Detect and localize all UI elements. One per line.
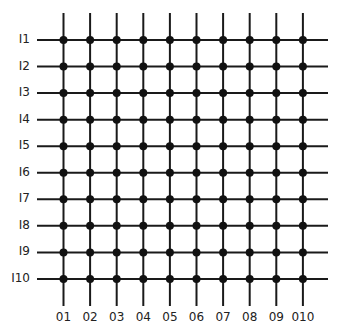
- crosspoint-dot: [246, 142, 254, 150]
- crossbar-grid: [0, 0, 341, 336]
- crosspoint-dot: [246, 169, 254, 177]
- crosspoint-dot: [193, 116, 201, 124]
- crosspoint-dot: [166, 222, 174, 230]
- row-label: I10: [0, 271, 30, 285]
- crosspoint-dot: [113, 63, 121, 71]
- crosspoint-dot: [86, 36, 94, 44]
- crosspoint-dot: [193, 195, 201, 203]
- crossbar-diagram: I1I2I3I4I5I6I7I8I9I100102030405060708090…: [0, 0, 341, 336]
- crosspoint-dot: [246, 36, 254, 44]
- crosspoint-dot: [60, 116, 68, 124]
- crosspoint-dot: [219, 63, 227, 71]
- crosspoint-dot: [219, 142, 227, 150]
- crosspoint-dot: [272, 116, 280, 124]
- crosspoint-dot: [246, 63, 254, 71]
- crosspoint-dot: [113, 169, 121, 177]
- crosspoint-dot: [272, 222, 280, 230]
- crosspoint-dot: [299, 248, 307, 256]
- crosspoint-dot: [113, 195, 121, 203]
- row-label: I3: [0, 85, 30, 99]
- crosspoint-dot: [139, 36, 147, 44]
- row-label: I4: [0, 112, 30, 126]
- row-label: I7: [0, 191, 30, 205]
- crosspoint-dot: [272, 63, 280, 71]
- crosspoint-dot: [86, 275, 94, 283]
- crosspoint-dot: [193, 169, 201, 177]
- crosspoint-dot: [166, 275, 174, 283]
- crosspoint-dot: [246, 195, 254, 203]
- col-label: 06: [182, 310, 212, 324]
- crosspoint-dot: [219, 36, 227, 44]
- crosspoint-dot: [166, 89, 174, 97]
- crosspoint-dot: [86, 63, 94, 71]
- crosspoint-dot: [219, 248, 227, 256]
- crosspoint-dot: [86, 222, 94, 230]
- col-label: 08: [235, 310, 265, 324]
- crosspoint-dot: [299, 222, 307, 230]
- crosspoint-dot: [193, 89, 201, 97]
- crosspoint-dot: [60, 169, 68, 177]
- crosspoint-dot: [86, 195, 94, 203]
- row-label: I1: [0, 32, 30, 46]
- crosspoint-dot: [166, 63, 174, 71]
- crosspoint-dot: [139, 89, 147, 97]
- crosspoint-dot: [113, 222, 121, 230]
- crosspoint-dot: [299, 169, 307, 177]
- crosspoint-dot: [60, 36, 68, 44]
- crosspoint-dot: [113, 142, 121, 150]
- crosspoint-dot: [113, 248, 121, 256]
- crosspoint-dot: [219, 89, 227, 97]
- crosspoint-dot: [139, 142, 147, 150]
- crosspoint-dot: [139, 275, 147, 283]
- crosspoint-dot: [272, 36, 280, 44]
- crosspoint-dot: [219, 275, 227, 283]
- col-label: 07: [208, 310, 238, 324]
- crosspoint-dot: [272, 275, 280, 283]
- crosspoint-dot: [272, 195, 280, 203]
- crosspoint-dot: [139, 248, 147, 256]
- row-label: I8: [0, 218, 30, 232]
- crosspoint-dot: [246, 89, 254, 97]
- crosspoint-dot: [299, 116, 307, 124]
- crosspoint-dot: [299, 63, 307, 71]
- crosspoint-dot: [246, 275, 254, 283]
- row-label: I6: [0, 165, 30, 179]
- crosspoint-dot: [86, 116, 94, 124]
- crosspoint-dot: [272, 248, 280, 256]
- crosspoint-dot: [166, 195, 174, 203]
- crosspoint-dot: [299, 195, 307, 203]
- crosspoint-dot: [299, 89, 307, 97]
- col-label: 02: [75, 310, 105, 324]
- crosspoint-dot: [166, 116, 174, 124]
- crosspoint-dot: [139, 222, 147, 230]
- crosspoint-dot: [166, 169, 174, 177]
- crosspoint-dot: [166, 36, 174, 44]
- col-label: 010: [288, 310, 318, 324]
- crosspoint-dot: [272, 89, 280, 97]
- crosspoint-dot: [219, 169, 227, 177]
- crosspoint-dot: [86, 142, 94, 150]
- crosspoint-dot: [219, 222, 227, 230]
- crosspoint-dot: [139, 116, 147, 124]
- crosspoint-dot: [86, 89, 94, 97]
- crosspoint-dot: [60, 195, 68, 203]
- crosspoint-dot: [193, 63, 201, 71]
- crosspoint-dot: [299, 142, 307, 150]
- crosspoint-dot: [193, 36, 201, 44]
- col-label: 04: [128, 310, 158, 324]
- crosspoint-dot: [219, 116, 227, 124]
- crosspoint-dot: [272, 169, 280, 177]
- crosspoint-dot: [86, 248, 94, 256]
- crosspoint-dot: [246, 116, 254, 124]
- crosspoint-dot: [60, 248, 68, 256]
- crosspoint-dot: [299, 275, 307, 283]
- crosspoint-dot: [166, 248, 174, 256]
- crosspoint-dot: [139, 63, 147, 71]
- crosspoint-dot: [60, 275, 68, 283]
- crosspoint-dot: [139, 195, 147, 203]
- col-label: 01: [49, 310, 79, 324]
- crosspoint-dot: [193, 275, 201, 283]
- crosspoint-dot: [60, 89, 68, 97]
- crosspoint-dot: [193, 142, 201, 150]
- col-label: 03: [102, 310, 132, 324]
